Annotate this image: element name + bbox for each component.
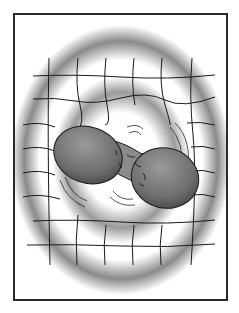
illustration-frame xyxy=(13,13,228,301)
spacetime-merger-illustration xyxy=(15,15,226,299)
